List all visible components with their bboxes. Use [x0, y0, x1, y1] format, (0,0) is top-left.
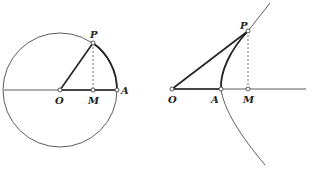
- point-O: [58, 88, 62, 92]
- label-A: A: [120, 85, 129, 96]
- point-A: [115, 88, 119, 92]
- label-O: O: [55, 95, 64, 106]
- label-P: P: [89, 29, 98, 40]
- label-O: O: [168, 94, 177, 105]
- radius-OP: [60, 43, 93, 90]
- arc-PA: [93, 43, 117, 90]
- segment-OP: [172, 31, 248, 89]
- point-M: [91, 88, 95, 92]
- circle-figure: P O M A: [3, 29, 129, 147]
- diagram-canvas: P O M A P O A M: [0, 0, 313, 169]
- point-P: [91, 41, 95, 45]
- point-O: [170, 87, 174, 91]
- point-A: [219, 87, 223, 91]
- point-M: [246, 87, 250, 91]
- label-P: P: [239, 20, 248, 31]
- label-M: M: [242, 94, 255, 105]
- asymptote-line: [248, 3, 270, 31]
- hyperbolic-arc-AP: [221, 31, 248, 89]
- label-M: M: [87, 95, 100, 106]
- hyperbola-figure: P O A M: [168, 3, 306, 165]
- label-A: A: [210, 94, 219, 105]
